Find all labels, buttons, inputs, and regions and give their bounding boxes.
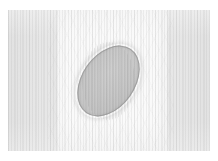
field-image-canvas <box>8 10 210 151</box>
figure-root <box>0 0 218 161</box>
